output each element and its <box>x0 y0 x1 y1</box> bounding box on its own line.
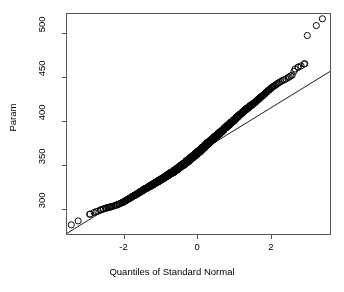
x-tick-label: 2 <box>268 241 273 252</box>
y-axis-title: Param <box>7 88 18 148</box>
x-tick-label: -2 <box>119 241 127 252</box>
x-tick-label: 0 <box>195 241 200 252</box>
y-tick-label: 500 <box>35 16 46 48</box>
y-tick-label: 300 <box>35 192 46 224</box>
qq-plot-canvas <box>0 0 344 292</box>
qq-plot-figure: Param Quantiles of Standard Normal -2023… <box>0 0 344 292</box>
y-tick-label: 400 <box>35 104 46 136</box>
x-axis-title: Quantiles of Standard Normal <box>0 266 344 277</box>
y-tick-label: 450 <box>35 60 46 92</box>
y-tick-label: 350 <box>35 148 46 180</box>
